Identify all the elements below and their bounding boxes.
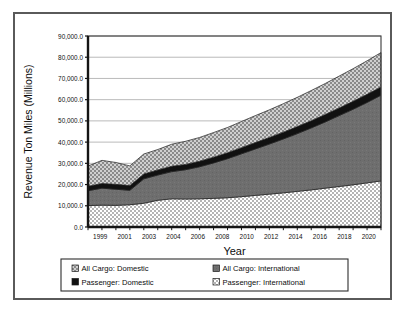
x-tick-label: 2010: [240, 233, 255, 240]
legend-swatch: [213, 265, 220, 272]
x-tick-label: 2004: [166, 233, 181, 240]
x-tick-label: 2008: [215, 233, 230, 240]
y-axis-ticks: 0.010,000.020,000.030,000.040,000.050,00…: [58, 33, 88, 231]
legend-swatch: [72, 279, 79, 286]
legend-label: Passenger: International: [223, 278, 306, 287]
y-tick-label: 10,000.0: [58, 202, 83, 209]
y-tick-label: 50,000.0: [58, 117, 83, 124]
legend-label: Passenger: Domestic: [82, 278, 154, 287]
stacked-area-chart: 0.010,000.020,000.030,000.040,000.050,00…: [0, 0, 409, 313]
legend-item[interactable]: All Cargo: International: [213, 264, 300, 273]
chart-figure: 0.010,000.020,000.030,000.040,000.050,00…: [0, 0, 409, 313]
y-tick-label: 60,000.0: [58, 96, 83, 103]
legend: All Cargo: DomesticAll Cargo: Internatio…: [61, 259, 348, 291]
x-tick-label: 2003: [142, 233, 157, 240]
x-axis-ticks: 1999200120032004200620082010201220142016…: [88, 227, 381, 240]
x-axis-title: Year: [223, 245, 246, 257]
legend-label: All Cargo: International: [223, 264, 301, 273]
x-tick-label: 2016: [313, 233, 328, 240]
y-tick-label: 70,000.0: [58, 75, 83, 82]
x-tick-label: 1999: [93, 233, 108, 240]
legend-item[interactable]: All Cargo: Domestic: [72, 264, 149, 273]
x-tick-label: 2014: [288, 233, 303, 240]
y-tick-label: 80,000.0: [58, 54, 83, 61]
legend-label: All Cargo: Domestic: [82, 264, 149, 273]
legend-item[interactable]: Passenger: International: [213, 278, 305, 287]
y-tick-label: 30,000.0: [58, 160, 83, 167]
x-tick-label: 2012: [264, 233, 279, 240]
y-tick-label: 40,000.0: [58, 139, 83, 146]
y-tick-label: 90,000.0: [58, 33, 83, 40]
x-tick-label: 2006: [191, 233, 206, 240]
y-axis-title: Revenue Ton Miles (Millions): [22, 64, 34, 198]
legend-item[interactable]: Passenger: Domestic: [72, 278, 154, 287]
y-tick-label: 0.0: [74, 224, 83, 231]
x-tick-label: 2020: [362, 233, 377, 240]
legend-swatch: [213, 279, 220, 286]
legend-swatch: [72, 265, 79, 272]
x-tick-label: 2001: [118, 233, 133, 240]
x-tick-label: 2018: [337, 233, 352, 240]
y-tick-label: 20,000.0: [58, 181, 83, 188]
